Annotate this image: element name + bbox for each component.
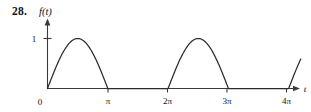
x-axis-label: t <box>304 84 307 94</box>
x-tick-label-4pi: 4π <box>282 96 292 106</box>
x-tick-label-3pi: 3π <box>222 96 232 106</box>
figure-container: 28. f(t) 1 0 π 2π 3π 4π t <box>0 0 311 112</box>
x-axis-arrow-icon <box>293 86 300 92</box>
x-tick-label-origin: 0 <box>38 97 43 107</box>
y-tick-label-1: 1 <box>32 34 37 44</box>
x-tick-label-pi: π <box>106 96 111 106</box>
plot-area: 1 0 π 2π 3π 4π t <box>0 0 311 112</box>
y-axis-arrow-icon <box>45 19 51 26</box>
waveform-curve <box>48 39 301 89</box>
x-tick-label-2pi: 2π <box>163 96 173 106</box>
